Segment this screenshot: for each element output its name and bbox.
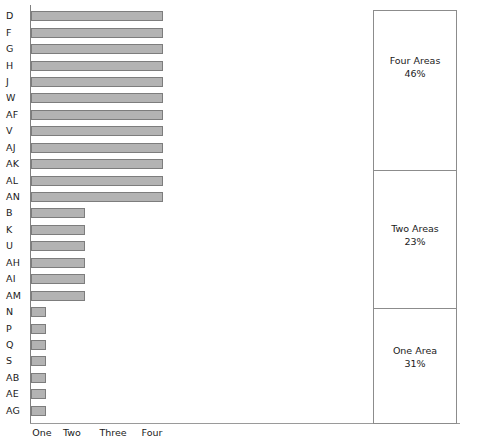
- bar: [31, 11, 163, 21]
- bar-row: W: [0, 90, 360, 106]
- category-label: P: [6, 324, 12, 334]
- bar: [31, 143, 163, 153]
- bar-row: J: [0, 74, 360, 90]
- category-label: AG: [6, 406, 20, 416]
- bar: [31, 291, 85, 301]
- bar-row: AJ: [0, 140, 360, 156]
- category-label: N: [6, 307, 13, 317]
- x-tick-label: One: [32, 428, 51, 438]
- bar-row: AM: [0, 287, 360, 303]
- bar: [31, 307, 46, 317]
- legend-section-value: 31%: [404, 358, 425, 369]
- bar-row: AF: [0, 107, 360, 123]
- bar: [31, 176, 163, 186]
- bar: [31, 340, 46, 350]
- category-label: V: [6, 127, 13, 137]
- legend-section-value: 23%: [404, 236, 425, 247]
- category-label: J: [6, 77, 9, 87]
- bar-row: K: [0, 222, 360, 238]
- bar: [31, 110, 163, 120]
- category-label: AI: [6, 274, 16, 284]
- bar-row: Q: [0, 337, 360, 353]
- bar-row: U: [0, 238, 360, 254]
- category-label: AB: [6, 373, 19, 383]
- bar: [31, 389, 46, 399]
- bar: [31, 28, 163, 38]
- legend-section: Two Areas23%: [374, 171, 456, 309]
- bar-row: AL: [0, 172, 360, 188]
- bar: [31, 93, 163, 103]
- bar: [31, 274, 85, 284]
- category-label: U: [6, 242, 13, 252]
- category-label: K: [6, 225, 12, 235]
- bar-row: V: [0, 123, 360, 139]
- bar-row: AB: [0, 370, 360, 386]
- bar: [31, 77, 163, 87]
- bar: [31, 208, 85, 218]
- bar: [31, 373, 46, 383]
- bar: [31, 159, 163, 169]
- bar-row: AH: [0, 255, 360, 271]
- bar: [31, 324, 46, 334]
- bar: [31, 44, 163, 54]
- x-axis-tick-labels: OneTwoThreeFour: [0, 428, 260, 442]
- bar-row: B: [0, 205, 360, 221]
- category-label: S: [6, 357, 12, 367]
- bar: [31, 126, 163, 136]
- legend-panel: Four Areas46%Two Areas23%One Area31%: [373, 10, 457, 424]
- legend-section: Four Areas46%: [374, 11, 456, 171]
- bar: [31, 241, 85, 251]
- bar-row: AE: [0, 386, 360, 402]
- category-label: W: [6, 94, 16, 104]
- category-label: AF: [6, 110, 18, 120]
- legend-section-title: One Area: [393, 345, 437, 356]
- legend-section: One Area31%: [374, 309, 456, 423]
- bar-row: G: [0, 41, 360, 57]
- bar: [31, 356, 46, 366]
- bar-row: F: [0, 24, 360, 40]
- x-tick-label: Two: [63, 428, 81, 438]
- bar: [31, 258, 85, 268]
- category-label: AH: [6, 258, 20, 268]
- bar-row: P: [0, 320, 360, 336]
- category-label: Q: [6, 340, 14, 350]
- bar-row: AG: [0, 403, 360, 419]
- category-label: F: [6, 28, 12, 38]
- category-label: AM: [6, 291, 21, 301]
- legend-section-value: 46%: [404, 68, 425, 79]
- bar-row: H: [0, 57, 360, 73]
- category-label: D: [6, 11, 14, 21]
- bar-row: AI: [0, 271, 360, 287]
- bar: [31, 406, 46, 416]
- category-label: G: [6, 44, 14, 54]
- legend-section-title: Two Areas: [391, 223, 439, 234]
- bar-row: D: [0, 8, 360, 24]
- bar-row: AN: [0, 189, 360, 205]
- x-tick-label: Four: [142, 428, 163, 438]
- category-label: B: [6, 209, 13, 219]
- bar-row: S: [0, 353, 360, 369]
- category-label: AN: [6, 192, 20, 202]
- x-tick-label: Three: [99, 428, 126, 438]
- bar-series: DFGHJWAFVAJAKALANBKUAHAIAMNPQSABAEAG: [0, 8, 360, 419]
- category-label: AJ: [6, 143, 16, 153]
- category-label: AE: [6, 390, 19, 400]
- bar: [31, 225, 85, 235]
- category-label: AK: [6, 159, 19, 169]
- bar-row: N: [0, 304, 360, 320]
- bar-row: AK: [0, 156, 360, 172]
- bar: [31, 61, 163, 71]
- category-label: H: [6, 61, 13, 71]
- bar-chart: DFGHJWAFVAJAKALANBKUAHAIAMNPQSABAEAG One…: [0, 0, 480, 443]
- category-label: AL: [6, 176, 18, 186]
- legend-section-title: Four Areas: [390, 55, 441, 66]
- bar: [31, 192, 163, 202]
